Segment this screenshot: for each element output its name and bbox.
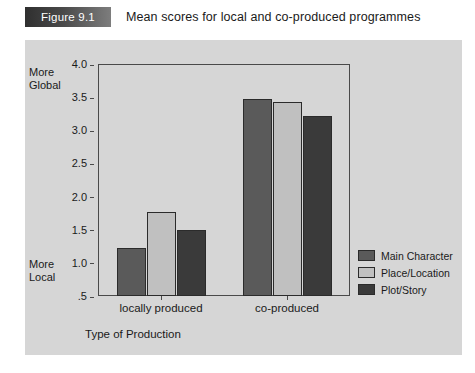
legend-label: Place/Location bbox=[381, 267, 450, 279]
chart-legend: Main CharacterPlace/LocationPlot/Story bbox=[358, 248, 462, 299]
bar bbox=[303, 116, 332, 296]
y-axis-tick-mark bbox=[90, 131, 94, 132]
bar bbox=[177, 230, 206, 296]
legend-label: Plot/Story bbox=[381, 284, 427, 296]
y-axis-anchor-top-line1: More bbox=[29, 66, 54, 78]
legend-item: Plot/Story bbox=[358, 282, 462, 297]
bar bbox=[147, 212, 176, 296]
y-axis-anchor-bottom-line2: Local bbox=[29, 271, 55, 283]
x-axis-tick-mark bbox=[287, 296, 288, 300]
x-axis-category-label: co-produced bbox=[255, 302, 319, 314]
bar bbox=[273, 102, 302, 296]
y-axis-tick-label: 2.5 bbox=[72, 157, 94, 169]
y-axis-tick-label: 3.0 bbox=[72, 124, 94, 136]
x-axis-tick-mark bbox=[161, 296, 162, 300]
legend-swatch bbox=[358, 267, 375, 278]
x-axis-category-label: locally produced bbox=[119, 302, 202, 314]
figure-number-tab: Figure 9.1 bbox=[25, 7, 111, 27]
figure-caption-row: Figure 9.1 Mean scores for local and co-… bbox=[25, 6, 462, 28]
y-axis-tick-mark bbox=[90, 164, 94, 165]
y-axis-anchor-top: More Global bbox=[29, 66, 61, 92]
y-axis-tick-mark bbox=[90, 263, 94, 264]
legend-item: Place/Location bbox=[358, 265, 462, 280]
y-axis-tick-label: 1.5 bbox=[72, 224, 94, 236]
bar bbox=[117, 248, 146, 296]
y-axis-tick-mark bbox=[90, 197, 94, 198]
y-axis-tick-label: .5 bbox=[78, 290, 94, 302]
legend-swatch bbox=[358, 250, 375, 261]
chart-panel: 4.03.53.02.52.01.51.0.5 More Global More… bbox=[25, 40, 462, 355]
y-axis-anchor-bottom-line1: More bbox=[29, 258, 54, 270]
y-axis-anchor-top-line2: Global bbox=[29, 79, 61, 91]
y-axis-tick-label: 1.0 bbox=[72, 257, 94, 269]
y-axis-tick-label: 2.0 bbox=[72, 191, 94, 203]
x-axis-title: Type of Production bbox=[85, 328, 181, 340]
legend-swatch bbox=[358, 284, 375, 295]
y-axis-tick-mark bbox=[90, 230, 94, 231]
y-axis-tick-mark bbox=[90, 98, 94, 99]
y-axis-tick-mark bbox=[90, 297, 94, 298]
y-axis-anchor-bottom: More Local bbox=[29, 258, 55, 284]
bar bbox=[243, 99, 272, 296]
y-axis-tick-label: 4.0 bbox=[72, 58, 94, 70]
y-axis-tick-label: 3.5 bbox=[72, 91, 94, 103]
legend-item: Main Character bbox=[358, 248, 462, 263]
legend-label: Main Character bbox=[381, 250, 453, 262]
y-axis-tick-mark bbox=[90, 65, 94, 66]
figure-title: Mean scores for local and co-produced pr… bbox=[126, 10, 421, 24]
